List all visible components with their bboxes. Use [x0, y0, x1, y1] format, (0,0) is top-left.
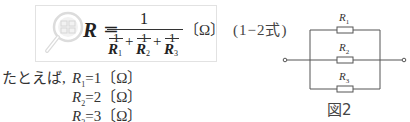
resistor-r3: [337, 86, 353, 92]
label-var: R: [339, 70, 346, 82]
right-terminal: [402, 58, 406, 62]
resistor-r1: [337, 27, 353, 33]
label-r2: R2: [339, 41, 349, 56]
label-var: R: [339, 11, 346, 23]
label-r1: R1: [339, 11, 349, 26]
label-sub: 2: [346, 48, 350, 56]
label-sub: 3: [346, 77, 350, 85]
left-terminal: [283, 58, 287, 62]
resistor-r2: [337, 57, 353, 63]
label-var: R: [339, 41, 346, 53]
figure-caption: 図2: [327, 98, 352, 119]
label-r3: R3: [339, 70, 349, 85]
label-sub: 1: [346, 18, 350, 26]
